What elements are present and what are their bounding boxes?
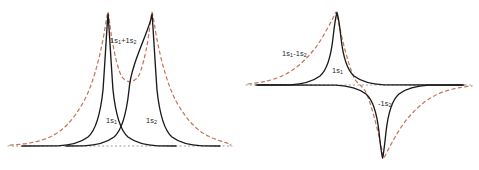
molecular-orbital-figure: 1s1+1s2 1s1 1s2 1s1-1s2 1s1 -1s2 — [0, 0, 479, 170]
label-atomic-orbital-1s1: 1s1 — [106, 116, 117, 125]
bonding-combination-panel: 1s1+1s2 1s1 1s2 — [0, 0, 240, 170]
label-atomic-orbital-minus-1s2: -1s2 — [378, 99, 392, 108]
label-atomic-orbital-1s1: 1s1 — [332, 66, 343, 75]
antibonding-combination-panel: 1s1-1s2 1s1 -1s2 — [240, 0, 479, 170]
label-difference-1s1-minus-1s2: 1s1-1s2 — [282, 49, 307, 58]
label-atomic-orbital-1s2: 1s2 — [146, 116, 157, 125]
antibonding-plot: 1s1-1s2 1s1 -1s2 — [240, 0, 479, 170]
bonding-plot: 1s1+1s2 1s1 1s2 — [0, 0, 240, 170]
label-sum-1s1-plus-1s2: 1s1+1s2 — [110, 36, 137, 45]
atomic-orbital-curve-1s2 — [66, 14, 220, 146]
